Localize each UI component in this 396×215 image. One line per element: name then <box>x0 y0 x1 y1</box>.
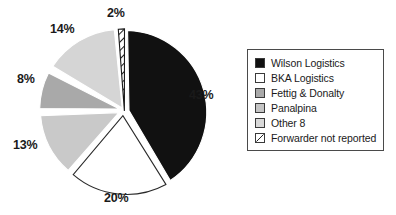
legend-label-fettig-donalty: Fettig & Donalty <box>271 87 344 99</box>
legend-label-other-8: Other 8 <box>271 117 305 129</box>
legend-item-other-8[interactable]: Other 8 <box>255 115 377 130</box>
legend-swatch-bka-logistics <box>255 73 265 83</box>
legend-label-panalpina: Panalpina <box>271 102 317 114</box>
legend-item-panalpina[interactable]: Panalpina <box>255 100 377 115</box>
pie-chart-plot: 43% 20% 13% 8% 14% 2% <box>0 0 240 215</box>
legend-swatch-other-8 <box>255 118 265 128</box>
legend-item-wilson-logistics[interactable]: Wilson Logistics <box>255 55 377 70</box>
pie-value-label-panalpina: 8% <box>17 72 35 86</box>
pie-value-label-forwarder-not-reported: 2% <box>107 6 125 20</box>
legend-swatch-fettig-donalty <box>255 88 265 98</box>
legend-item-forwarder-not-reported[interactable]: Forwarder not reported <box>255 130 377 145</box>
legend-item-fettig-donalty[interactable]: Fettig & Donalty <box>255 85 377 100</box>
pie-chart-figure: 43% 20% 13% 8% 14% 2% Wilson Logistics B… <box>0 0 396 215</box>
legend-swatch-forwarder-not-reported <box>255 133 265 143</box>
pie-value-label-wilson-logistics: 43% <box>189 88 213 102</box>
legend-swatch-panalpina <box>255 103 265 113</box>
pie-chart-svg <box>0 0 240 215</box>
chart-legend: Wilson Logistics BKA Logistics Fettig & … <box>247 49 384 151</box>
pie-value-label-fettig-donalty: 13% <box>13 138 37 152</box>
pie-value-label-bka-logistics: 20% <box>104 191 128 205</box>
legend-item-bka-logistics[interactable]: BKA Logistics <box>255 70 377 85</box>
pie-value-label-other-8: 14% <box>50 22 74 36</box>
legend-label-bka-logistics: BKA Logistics <box>271 72 334 84</box>
legend-label-forwarder-not-reported: Forwarder not reported <box>271 132 376 144</box>
legend-label-wilson-logistics: Wilson Logistics <box>271 57 345 69</box>
hatch-icon <box>256 134 264 142</box>
legend-swatch-wilson-logistics <box>255 58 265 68</box>
